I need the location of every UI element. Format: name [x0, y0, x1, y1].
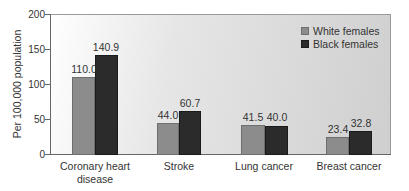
y-tick-label: 200: [28, 9, 45, 20]
value-label: 140.9: [93, 41, 119, 53]
legend-item-black: Black females: [301, 38, 378, 50]
y-tick-label: 50: [34, 114, 45, 125]
category-label-lung: Lung cancer: [235, 160, 293, 173]
bar-white-breast: [326, 137, 349, 155]
category-label-breast: Breast cancer: [317, 160, 382, 173]
y-axis-label: Per 100,000 population: [11, 30, 23, 139]
legend-swatch-black: [301, 40, 309, 48]
legend-item-white: White females: [301, 25, 380, 37]
bar-black-breast: [349, 131, 372, 155]
category-label-coronary: Coronary heart disease: [60, 160, 130, 186]
category-label-line: disease: [60, 173, 130, 186]
value-label: 60.7: [180, 97, 200, 109]
category-label-line: Coronary heart: [60, 160, 130, 173]
y-tick-label: 150: [28, 44, 45, 55]
value-label: 110.0: [71, 63, 97, 75]
y-tick-label: 100: [28, 79, 45, 90]
bar-white-coronary: [72, 77, 95, 155]
category-label-line: Breast cancer: [317, 160, 382, 173]
value-label: 23.4: [328, 123, 348, 135]
value-label: 40.0: [267, 111, 287, 123]
category-label-line: Stroke: [164, 160, 194, 173]
value-label: 32.8: [351, 117, 371, 129]
value-label: 44.0: [158, 109, 178, 121]
bar-black-lung: [265, 126, 288, 155]
y-tick: [45, 84, 50, 85]
y-tick: [45, 49, 50, 50]
legend-label: Black females: [313, 38, 378, 50]
bar-chart: Per 100,000 population 0 50 100 150 200 …: [0, 0, 409, 191]
y-axis-line: [50, 14, 51, 155]
legend-swatch-white: [301, 27, 309, 35]
y-tick: [45, 14, 50, 15]
y-tick: [45, 154, 50, 155]
category-label-line: Lung cancer: [235, 160, 293, 173]
bar-black-coronary: [95, 55, 118, 155]
category-label-stroke: Stroke: [164, 160, 194, 173]
y-tick-label: 0: [39, 149, 45, 160]
y-tick: [45, 119, 50, 120]
bar-white-lung: [241, 125, 265, 155]
value-label: 41.5: [243, 111, 263, 123]
legend-label: White females: [313, 25, 380, 37]
bar-black-stroke: [179, 111, 201, 155]
bar-white-stroke: [157, 123, 179, 155]
